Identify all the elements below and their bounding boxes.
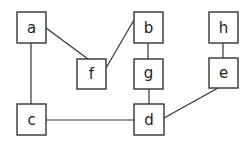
node-c: c [17,104,46,135]
node-label: h [219,19,229,37]
node-label: b [144,19,154,37]
node-label: f [89,65,95,83]
node-h: h [209,12,238,43]
node-label: g [144,64,154,82]
node-b: b [134,12,163,43]
node-label: e [219,64,228,82]
node-d: d [134,104,164,135]
edge-e-d [164,88,218,118]
edges [31,20,223,120]
graph-diagram: a f b g h e c d [0,0,252,145]
node-label: d [144,111,154,129]
node-a: a [17,12,46,43]
edge-a-f [46,28,88,59]
node-e: e [209,58,238,88]
edge-b-f [106,20,134,68]
node-label: c [27,111,35,129]
node-f: f [77,59,106,89]
node-label: a [27,19,36,37]
node-g: g [134,59,163,89]
